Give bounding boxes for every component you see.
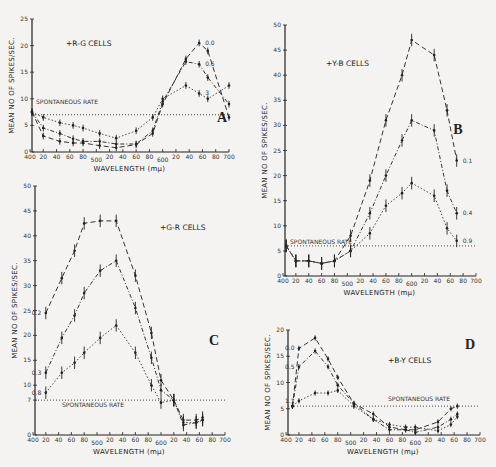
data-point — [455, 212, 458, 215]
data-point — [42, 135, 45, 138]
data-point — [134, 274, 137, 277]
y-tick-label: 40 — [23, 232, 31, 239]
data-point — [42, 116, 45, 119]
x-tick-label: 40 — [437, 436, 445, 443]
data-point — [372, 413, 375, 416]
x-tick-label: 20 — [292, 277, 300, 284]
series-label: 0.4 — [463, 209, 473, 216]
data-point — [82, 140, 85, 143]
series-0.5: 0.5 — [285, 348, 459, 435]
data-point — [320, 262, 323, 265]
data-point — [228, 84, 231, 87]
x-tick-label: 20 — [106, 153, 114, 160]
series-label: 0.0 — [285, 344, 295, 351]
panel-a: 0510152025400204060805002040608060020406… — [8, 15, 235, 173]
data-point — [401, 192, 404, 195]
y-axis-label: MEAN NO OF SPIKES/SEC. — [264, 334, 272, 431]
x-tick-label: 20 — [360, 436, 368, 443]
data-point — [450, 407, 453, 410]
cell-type-label: +R-G CELLS — [66, 39, 112, 48]
data-point — [173, 399, 176, 402]
data-point — [314, 392, 317, 395]
data-point — [198, 63, 201, 66]
x-axis-label: WAVELENGTH (mμ) — [347, 448, 419, 456]
x-tick-label: 80 — [208, 436, 216, 443]
series-0.2: 0.2 — [32, 215, 204, 427]
data-point — [195, 421, 198, 424]
data-point — [410, 182, 413, 185]
data-point — [298, 347, 301, 350]
x-tick-label: 40 — [53, 153, 61, 160]
x-tick-label: 600 — [155, 439, 167, 446]
data-point — [385, 204, 388, 207]
panel-b: 0510152025303540455040020406080500204060… — [261, 21, 482, 297]
x-tick-label: 80 — [80, 436, 88, 443]
y-tick-label: 40 — [273, 71, 281, 78]
y-tick-label: 20 — [20, 42, 28, 49]
data-point — [31, 111, 34, 114]
data-point — [414, 431, 417, 434]
panel-letter: A — [217, 110, 228, 125]
data-point — [291, 405, 294, 408]
x-tick-label: 40 — [185, 153, 193, 160]
x-tick-label: 60 — [450, 436, 458, 443]
data-point — [369, 212, 372, 215]
y-tick-label: 5 — [277, 247, 281, 254]
x-tick-label: 20 — [42, 436, 50, 443]
series-label: 0.2 — [32, 309, 42, 316]
x-tick-label: 500 — [91, 156, 103, 163]
data-point — [198, 42, 201, 45]
x-tick-label: 500 — [342, 280, 354, 287]
series-0.8: 0.8 — [32, 319, 204, 429]
x-tick-label: 60 — [132, 436, 140, 443]
x-tick-label: 60 — [386, 436, 394, 443]
y-axis-label: MEAN NO OF SPIKES/SEC. — [261, 102, 269, 199]
data-point — [61, 337, 64, 340]
data-point — [150, 332, 153, 335]
x-axis-label: WAVELENGTH (mμ) — [93, 448, 165, 456]
data-point — [327, 392, 330, 395]
data-point — [388, 428, 391, 431]
data-point — [388, 423, 391, 426]
x-tick-label: 60 — [382, 277, 390, 284]
data-point — [450, 423, 453, 426]
data-point — [61, 371, 64, 374]
data-point — [433, 129, 436, 132]
x-tick-label: 80 — [79, 153, 87, 160]
series-0.9: 0.9 — [285, 177, 473, 270]
data-point — [73, 249, 76, 252]
spontaneous-rate-label: SPONTANEOUS RATE — [290, 238, 352, 245]
data-point — [115, 137, 118, 140]
series-label: 0.6 — [205, 60, 215, 67]
data-point — [410, 119, 413, 122]
data-point — [285, 245, 288, 248]
x-tick-label: 80 — [459, 277, 467, 284]
data-point — [135, 129, 138, 132]
data-point — [115, 259, 118, 262]
data-point — [83, 352, 86, 355]
y-axis-label: MEAN NO OF SPIKES/SEC. — [8, 37, 16, 134]
data-point — [135, 143, 138, 146]
y-tick-label: 10 — [20, 95, 28, 102]
series-label: 0.1 — [463, 157, 473, 164]
x-tick-label: 40 — [305, 277, 313, 284]
data-point — [206, 50, 209, 53]
y-tick-label: 20 — [276, 326, 284, 333]
data-point — [314, 337, 317, 340]
data-point — [150, 357, 153, 360]
y-tick-label: 50 — [273, 21, 281, 28]
data-point — [115, 143, 118, 146]
data-point — [160, 379, 163, 382]
series-label: 3 — [205, 89, 209, 96]
data-point — [336, 384, 339, 387]
panel-letter: C — [209, 333, 219, 348]
data-point — [134, 352, 137, 355]
y-tick-label: 35 — [23, 257, 31, 264]
data-point — [228, 116, 231, 119]
data-point — [414, 426, 417, 429]
data-point — [160, 401, 163, 404]
x-tick-label: 20 — [172, 153, 180, 160]
data-point — [45, 391, 48, 394]
data-point — [446, 227, 449, 230]
panel-d: 0510152040020406080500204060806002040608… — [264, 326, 486, 456]
